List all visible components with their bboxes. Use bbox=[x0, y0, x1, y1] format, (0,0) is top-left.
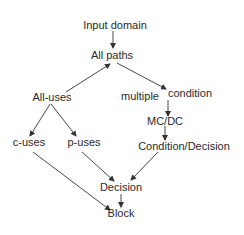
node-all-paths: All paths bbox=[91, 49, 133, 61]
edge-all-uses-to-p-uses bbox=[51, 104, 76, 136]
edge-all-uses-to-all-paths bbox=[66, 64, 110, 92]
diagram-edges bbox=[0, 0, 244, 235]
node-decision: Decision bbox=[100, 181, 142, 193]
edge-c-uses-to-block bbox=[33, 152, 110, 210]
node-all-uses: All-uses bbox=[32, 91, 71, 103]
node-condition-decision: Condition/Decision bbox=[138, 140, 230, 152]
node-p-uses: p-uses bbox=[67, 136, 100, 148]
coverage-hierarchy-diagram: Input domain All paths All-uses multiple… bbox=[0, 0, 244, 235]
edge-p-uses-to-decision bbox=[82, 152, 114, 181]
node-block: Block bbox=[108, 207, 135, 219]
node-mcdc: MC/DC bbox=[147, 115, 183, 127]
node-multiple: multiple bbox=[121, 90, 159, 102]
node-condition: condition bbox=[168, 87, 212, 99]
edge-all-uses-to-c-uses bbox=[30, 104, 50, 136]
node-c-uses: c-uses bbox=[13, 136, 45, 148]
node-input-domain: Input domain bbox=[83, 19, 147, 31]
edge-condition-decision-to-decision bbox=[131, 152, 158, 180]
edge-all-paths-to-multiple-condition bbox=[117, 63, 166, 89]
